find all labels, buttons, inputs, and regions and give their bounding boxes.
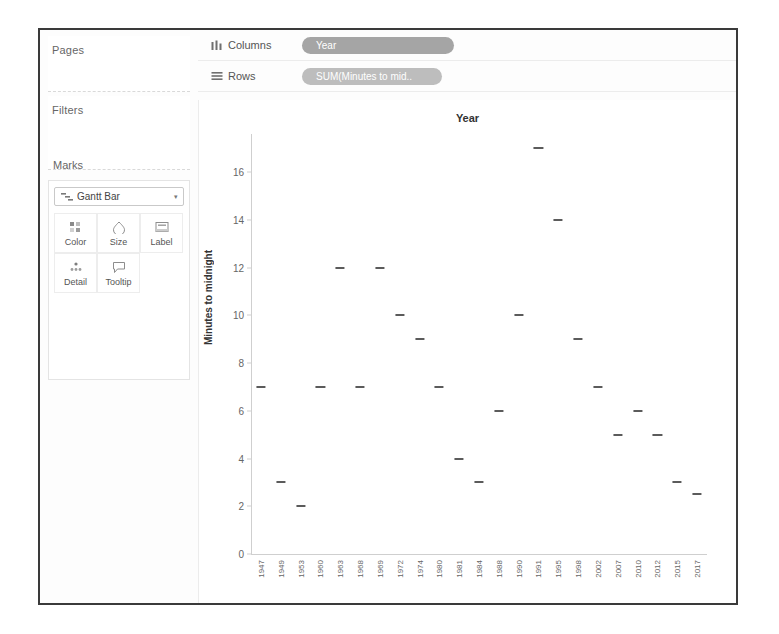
gantt-mark[interactable] bbox=[375, 267, 384, 269]
y-axis-tick-label: 8 bbox=[238, 358, 244, 369]
y-axis-tick bbox=[247, 315, 251, 316]
chevron-down-icon[interactable]: ▾ bbox=[174, 193, 183, 201]
rows-label: Rows bbox=[228, 70, 302, 82]
rows-icon bbox=[206, 71, 228, 82]
mark-type-label: Gantt Bar bbox=[75, 191, 174, 202]
rows-shelf[interactable]: Rows SUM(Minutes to mid.. bbox=[198, 61, 736, 92]
gantt-mark[interactable] bbox=[435, 386, 444, 388]
y-axis-tick-label: 16 bbox=[233, 167, 244, 178]
y-axis-tick-label: 4 bbox=[238, 453, 244, 464]
x-axis-tick-label: 1984 bbox=[475, 560, 484, 578]
marks-size-label: Size bbox=[110, 237, 128, 247]
columns-label: Columns bbox=[228, 39, 302, 51]
x-axis-tick-label: 2017 bbox=[693, 560, 702, 578]
marks-empty-slot bbox=[140, 253, 183, 293]
tooltip-icon bbox=[112, 259, 126, 275]
gantt-mark[interactable] bbox=[514, 314, 523, 316]
gantt-mark[interactable] bbox=[574, 338, 583, 340]
gantt-mark[interactable] bbox=[276, 481, 285, 483]
y-axis-tick-label: 0 bbox=[238, 549, 244, 560]
shelf-area: Columns Year Rows SUM(Minutes to mid.. bbox=[198, 30, 736, 100]
gantt-mark[interactable] bbox=[673, 481, 682, 483]
pages-label: Pages bbox=[52, 44, 84, 56]
marks-label-button[interactable]: Label bbox=[140, 213, 183, 253]
x-axis-tick-label: 1990 bbox=[514, 560, 523, 578]
marks-button-row: Color Size bbox=[54, 213, 184, 253]
x-axis-tick-label: 1963 bbox=[336, 560, 345, 578]
label-icon bbox=[155, 219, 169, 235]
y-axis-tick-label: 10 bbox=[233, 310, 244, 321]
tableau-worksheet-frame: Pages Filters Marks Gantt Bar ▾ bbox=[38, 28, 738, 605]
gantt-mark[interactable] bbox=[455, 458, 464, 460]
columns-shelf[interactable]: Columns Year bbox=[198, 30, 736, 61]
chart-title: Year bbox=[199, 112, 736, 124]
gantt-mark[interactable] bbox=[316, 386, 325, 388]
x-axis-tick-label: 2015 bbox=[673, 560, 682, 578]
gantt-mark[interactable] bbox=[693, 493, 702, 495]
y-axis-tick bbox=[247, 506, 251, 507]
x-axis-tick-label: 1953 bbox=[296, 560, 305, 578]
x-axis-tick-label: 1988 bbox=[494, 560, 503, 578]
gantt-mark[interactable] bbox=[415, 338, 424, 340]
gantt-mark[interactable] bbox=[554, 219, 563, 221]
marks-card: Marks Gantt Bar ▾ bbox=[48, 180, 190, 380]
y-axis-tick-label: 14 bbox=[233, 214, 244, 225]
x-axis-tick-label: 1995 bbox=[554, 560, 563, 578]
x-axis-tick-label: 1998 bbox=[574, 560, 583, 578]
y-axis-tick bbox=[247, 267, 251, 268]
gantt-mark[interactable] bbox=[534, 147, 543, 149]
x-axis-tick-label: 2010 bbox=[633, 560, 642, 578]
x-axis-tick-label: 1980 bbox=[435, 560, 444, 578]
y-axis-title: Minutes to midnight bbox=[203, 250, 214, 345]
gantt-mark[interactable] bbox=[296, 505, 305, 507]
y-axis-tick bbox=[247, 363, 251, 364]
gantt-bar-icon bbox=[59, 192, 75, 202]
mark-type-dropdown[interactable]: Gantt Bar ▾ bbox=[54, 187, 184, 206]
left-rail: Pages Filters Marks Gantt Bar ▾ bbox=[40, 30, 198, 603]
gantt-mark[interactable] bbox=[474, 481, 483, 483]
x-axis-tick-label: 1969 bbox=[375, 560, 384, 578]
y-axis-tick bbox=[247, 458, 251, 459]
size-icon bbox=[112, 219, 126, 235]
gantt-mark[interactable] bbox=[593, 386, 602, 388]
marks-label-label: Label bbox=[150, 237, 172, 247]
plot-area[interactable]: 0246810121416194719491953196019631968196… bbox=[251, 134, 707, 554]
marks-size-button[interactable]: Size bbox=[97, 213, 140, 253]
x-axis-tick-label: 2002 bbox=[593, 560, 602, 578]
marks-color-label: Color bbox=[65, 237, 87, 247]
gantt-mark[interactable] bbox=[613, 434, 622, 436]
y-axis-tick-label: 2 bbox=[238, 501, 244, 512]
filters-label: Filters bbox=[52, 104, 83, 116]
x-axis-tick-label: 1981 bbox=[455, 560, 464, 578]
marks-tooltip-button[interactable]: Tooltip bbox=[97, 253, 140, 293]
screenshot-root: Pages Filters Marks Gantt Bar ▾ bbox=[0, 0, 779, 634]
marks-detail-button[interactable]: Detail bbox=[54, 253, 97, 293]
y-axis-tick bbox=[247, 219, 251, 220]
pages-shelf[interactable]: Pages bbox=[48, 36, 190, 92]
gantt-mark[interactable] bbox=[395, 314, 404, 316]
y-axis-tick bbox=[247, 410, 251, 411]
x-axis-tick-label: 1972 bbox=[395, 560, 404, 578]
gantt-mark[interactable] bbox=[633, 410, 642, 412]
pill-year[interactable]: Year bbox=[302, 37, 454, 54]
marks-detail-label: Detail bbox=[64, 277, 87, 287]
x-axis-tick-label: 1949 bbox=[276, 560, 285, 578]
marks-button-row: Detail Tooltip bbox=[54, 253, 184, 293]
chart-view: Year Minutes to midnight 024681012141619… bbox=[198, 100, 736, 603]
x-axis-tick-label: 1991 bbox=[534, 560, 543, 578]
gantt-mark[interactable] bbox=[336, 267, 345, 269]
marks-color-button[interactable]: Color bbox=[54, 213, 97, 253]
marks-tooltip-label: Tooltip bbox=[105, 277, 131, 287]
x-axis-line bbox=[251, 554, 707, 555]
gantt-mark[interactable] bbox=[256, 386, 265, 388]
x-axis-tick-label: 1947 bbox=[256, 560, 265, 578]
gantt-mark[interactable] bbox=[653, 434, 662, 436]
pill-sum-minutes-to-midnight[interactable]: SUM(Minutes to mid.. bbox=[302, 68, 442, 85]
gantt-mark[interactable] bbox=[355, 386, 364, 388]
gantt-mark[interactable] bbox=[494, 410, 503, 412]
x-axis-tick-label: 2012 bbox=[653, 560, 662, 578]
x-axis-tick-label: 2007 bbox=[613, 560, 622, 578]
x-axis-tick-label: 1960 bbox=[316, 560, 325, 578]
x-axis-tick-label: 1974 bbox=[415, 560, 424, 578]
y-axis-tick-label: 12 bbox=[233, 262, 244, 273]
